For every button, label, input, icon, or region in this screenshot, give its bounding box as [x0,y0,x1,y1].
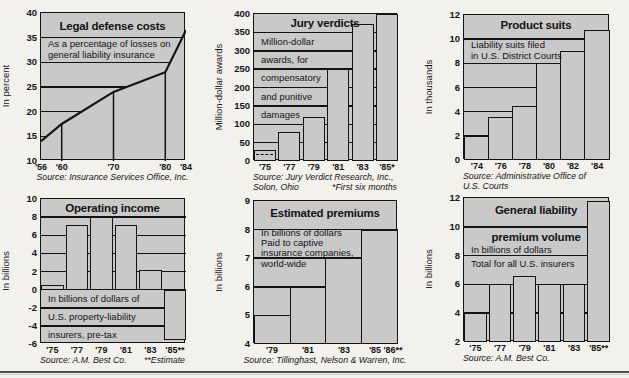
y-axis-label: In percent [0,65,11,107]
x-tick-label: '79 [254,345,290,355]
footer-rule [0,371,629,373]
insurance-charts-page: 40353025201510In percentLegal defense co… [0,0,629,378]
bar-'76 [488,117,514,161]
chart-subtitle-line: insurers, pre-tax [48,329,117,340]
y-tick-label: 8 [432,250,460,261]
y-tick-label: 4 [432,307,460,318]
y-tick-label: 400 [222,8,250,19]
y-axis-label: Million-dollar awards [213,43,224,130]
gridline [41,271,186,273]
y-tick-label: 6 [222,281,250,292]
dashed-marker [256,154,274,155]
y-tick-label: 12 [432,192,460,203]
y-tick-label: 4 [9,247,37,258]
y-tick-label: 25 [9,81,37,92]
chart-subtitle-line: and punitive [261,91,312,102]
x-tick-label: '85** [157,345,193,355]
y-tick-label: 9 [222,195,250,206]
y-tick-label: 10 [9,193,37,204]
chart-subtitle-line: Million-dollar [261,36,314,47]
source-text: Source: Administrative Office of [463,171,586,181]
y-tick-label: 5 [222,309,250,320]
y-tick-label: 8 [222,224,250,235]
x-tick-label: '81 [290,345,326,355]
bar-'85** [587,201,610,342]
y-tick-label: 200 [222,82,250,93]
source-line: Source: A.M. Best Co.**Estimate [40,355,185,365]
y-tick-label: 6 [432,82,460,93]
y-tick-label: 20 [9,106,37,117]
bar-'85* [376,14,398,161]
y-tick-label: -2 [9,302,37,313]
chart-subtitle-line: U.S. property-liability [48,311,136,322]
trend-line-plot [41,13,186,161]
source-text: Source: A.M. Best Co. [463,353,550,363]
y-tick-label: 0 [432,154,460,165]
x-tick-label: '84 [168,162,204,172]
y-tick-label: 50 [222,137,250,148]
bar-'81 [327,69,349,161]
bar-'81 [115,225,138,289]
y-tick-label: 10 [432,33,460,44]
bar-'84 [584,30,610,161]
bar-'75 [464,313,487,342]
bar-'80 [536,63,562,160]
footer-rule-shadow [0,374,629,375]
y-tick-label: 6 [432,278,460,289]
chart-estimated-premiums: 987654In billionsEstimated premiumsIn bi… [253,200,397,343]
bar-'77 [66,225,89,289]
y-tick-label: 0 [222,155,250,166]
y-axis-label: In billions [0,251,11,291]
y-axis-label: In billions [213,252,224,292]
chart-subtitle-line: Liability suits filed [471,39,545,50]
y-tick-label: -6 [9,338,37,349]
chart-product-suits: 121086420In thousandsProduct suitsLiabil… [463,14,609,159]
y-tick-label: 30 [9,56,37,67]
source-line: Source: Tillinghast, Nelson & Warren, In… [253,355,397,365]
source-text: U.S. Courts [463,181,508,191]
y-tick-label: 8 [9,211,37,222]
y-tick-label: 12 [432,9,460,20]
y-tick-label: 4 [222,338,250,349]
chart-subtitle-line: insurance companies, [261,247,353,258]
chart-subtitle-line: Total for all U.S. insurers [471,258,574,269]
y-tick-label: 350 [222,26,250,37]
x-tick-label: '85** [581,343,617,353]
chart-subtitle-line: In billions of dollars of [48,293,139,304]
source-line: Source: A.M. Best Co. [463,353,609,363]
bar-'85** [164,290,187,341]
y-tick-label: 7 [222,252,250,263]
bar-'81 [290,287,327,344]
y-axis-label: In thousands [423,59,434,113]
bar-'79 [303,117,325,161]
y-tick-label: 40 [9,7,37,18]
chart-subtitle-line: damages [261,109,300,120]
bar-'83 [563,284,586,342]
bar-'78 [512,106,538,160]
x-tick-label: '60 [44,162,80,172]
bar-'77 [489,284,512,342]
y-axis-label: In billions [423,249,434,289]
y-tick-label: 100 [222,118,250,129]
chart-subtitle-line: As a percentage of losses on [48,38,171,49]
bar-'79 [90,217,113,290]
source-text: Source: Tillinghast, Nelson & Warren, In… [243,355,406,365]
x-tick-label: '85* [369,162,405,172]
chart-title: Product suits [464,19,608,31]
bar-'83 [325,258,362,344]
source-text: Source: Insurance Services Office, Inc. [36,172,188,182]
chart-operating-income: 1086420-2-4-6In billionsOperating income… [40,198,185,343]
y-tick-label: 0 [9,284,37,295]
source-text: Solon, Ohio [253,182,299,192]
bar-'81 [538,284,561,342]
source-text: Source: Jury Verdict Research, Inc., [253,172,393,182]
chart-title: General liability [464,204,608,216]
bar-'82 [560,51,586,160]
y-tick-label: 10 [432,221,460,232]
bar-'74 [464,136,490,160]
source-text: Source: A.M. Best Co. [40,355,127,365]
chart-title: Operating income [41,202,184,214]
y-tick-label: 2 [432,336,460,347]
chart-subtitle-line: compensatory [261,72,321,83]
chart-jury-verdicts: 400350300250200150100500Million-dollar a… [253,13,397,160]
